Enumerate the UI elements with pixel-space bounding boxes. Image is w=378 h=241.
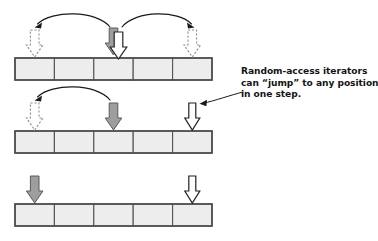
jump-arc-left	[35, 14, 111, 29]
cell	[15, 58, 54, 80]
cell	[94, 58, 133, 80]
ghost-iterator-right	[184, 30, 201, 57]
caption-line-1: Random-access iterators	[241, 66, 375, 78]
sequence-row-1	[15, 14, 212, 80]
cell	[94, 204, 133, 226]
cell	[54, 204, 93, 226]
cell	[173, 204, 212, 226]
diagram-canvas	[0, 0, 378, 241]
end-iterator	[185, 176, 200, 203]
sequence-row-2	[15, 87, 212, 153]
annotation-callout: Random-access iterators can “jump” to an…	[241, 66, 375, 101]
row-3-cells	[15, 204, 212, 226]
sequence-row-3	[15, 176, 212, 226]
cell	[54, 58, 93, 80]
end-iterator	[185, 103, 200, 130]
cell	[54, 131, 93, 153]
caption-line-2: can “jump” to any position	[241, 78, 375, 90]
cell	[173, 58, 212, 80]
cell	[133, 131, 172, 153]
row-1-cells	[15, 58, 212, 80]
ghost-iterator-left	[26, 30, 43, 57]
caption-line-3: in one step.	[241, 89, 375, 101]
ghost-iterator-left	[26, 103, 43, 130]
cell	[94, 131, 133, 153]
callout-leader-line	[200, 92, 244, 106]
row-2-cells	[15, 131, 212, 153]
current-iterator	[26, 176, 43, 203]
diagram-root: Random-access iterators can “jump” to an…	[0, 0, 378, 241]
cell	[133, 204, 172, 226]
current-iterator	[105, 103, 122, 130]
jump-arc-right	[122, 14, 195, 29]
cell	[15, 204, 54, 226]
jump-arc-left	[35, 87, 111, 102]
cell	[15, 131, 54, 153]
cell	[173, 131, 212, 153]
cell	[133, 58, 172, 80]
